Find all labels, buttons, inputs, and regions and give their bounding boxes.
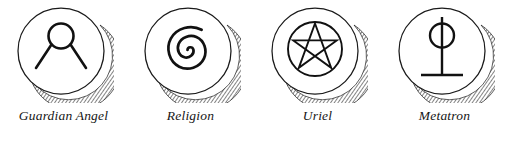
medallion-outline [18, 8, 104, 94]
medallion-religion [141, 3, 241, 103]
symbol-label: Religion [127, 107, 254, 125]
symbol-label: Uriel [254, 107, 381, 125]
symbol-card: Uriel [254, 0, 381, 149]
symbol-card: Guardian Angel [0, 0, 127, 149]
medallion-uriel [268, 3, 368, 103]
symbol-label: Metatron [381, 107, 508, 125]
medallion-metatron [395, 3, 495, 103]
symbol-card: Religion [127, 0, 254, 149]
medallion-guardian-angel [14, 3, 114, 103]
symbol-plate: Guardian Angel Relig [0, 0, 509, 149]
symbol-label: Guardian Angel [0, 107, 127, 125]
symbol-card: Metatron [381, 0, 508, 149]
